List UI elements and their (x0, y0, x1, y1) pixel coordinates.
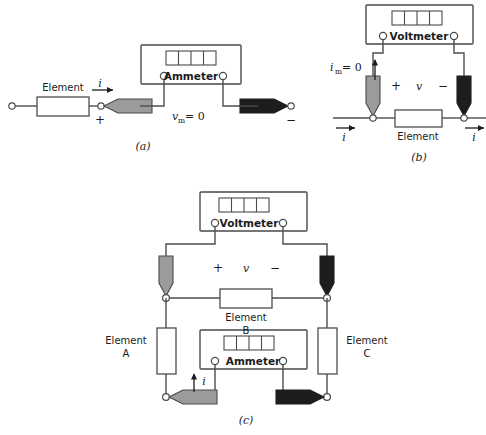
panel-a-current-label: i (98, 77, 102, 90)
panel-c-caption: (c) (239, 414, 254, 427)
panel-a-plus-sign: + (95, 113, 105, 127)
panel-a-element-label: Element (42, 82, 83, 93)
panel-a-ammeter-label: Ammeter (164, 70, 219, 82)
panel-c-voltage-label: v (243, 262, 250, 275)
panel-c-voltmeter-label: Voltmeter (220, 217, 280, 229)
panel-c-ammeter-label: Ammeter (226, 355, 281, 367)
panel-c-element-c-sublabel: C (364, 348, 371, 359)
panel-b-meter-current-equals: = 0 (342, 61, 362, 74)
panel-c-plus-sign: + (213, 261, 223, 275)
panel-c-element-a-sublabel: A (123, 348, 130, 359)
panel-c-element-b-sublabel: B (243, 325, 250, 336)
panel-a-caption: (a) (135, 140, 150, 153)
panel-b-voltage-label: v (416, 80, 423, 93)
panel-a-meter-voltage-equals: = 0 (185, 110, 205, 123)
panel-c-minus-sign: − (270, 261, 280, 275)
panel-b-current-label-left: i (342, 131, 346, 144)
panel-c-element-b-label: Element (225, 312, 266, 323)
circuit-figure: Ammeter Element i + − v m = 0 (a) Voltme… (0, 0, 486, 435)
panel-b-voltmeter-label: Voltmeter (390, 30, 450, 42)
panel-b-plus-sign: + (391, 79, 401, 93)
panel-b-minus-sign: − (438, 79, 448, 93)
panel-b-meter-current-symbol: i (330, 61, 334, 74)
panel-b-element-label: Element (397, 131, 438, 142)
panel-b-current-label-right: i (472, 131, 476, 144)
panel-c-element-a-label: Element (105, 335, 146, 346)
panel-b-caption: (b) (411, 151, 427, 164)
panel-a-minus-sign: − (286, 113, 296, 127)
panel-c-current-label: i (202, 375, 206, 388)
panel-c-element-c-label: Element (346, 335, 387, 346)
figure-text-layer: Ammeter Element i + − v m = 0 (a) Voltme… (0, 0, 486, 435)
